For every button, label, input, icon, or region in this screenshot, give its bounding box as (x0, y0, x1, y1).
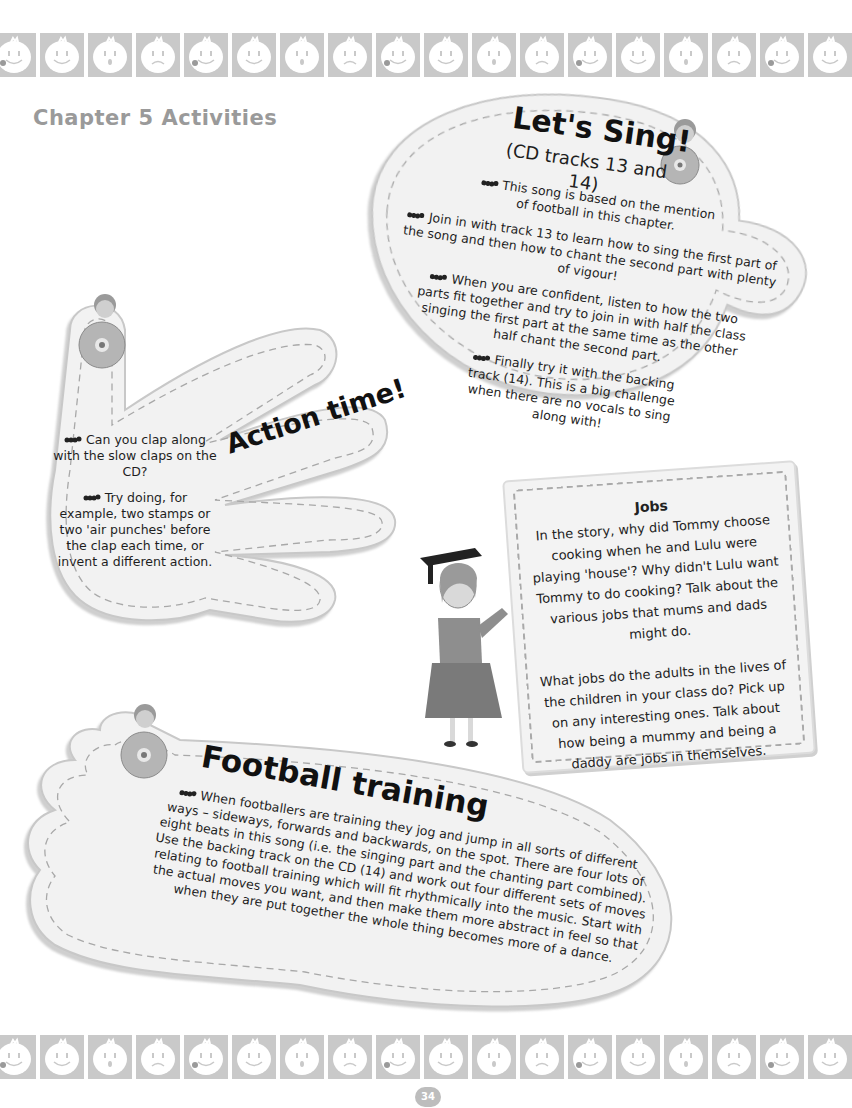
jobs-paragraph: What jobs do the adults in the lives of … (536, 654, 797, 776)
face-tile-surprised-icon (472, 1035, 516, 1079)
face-tile-sad-icon (520, 1035, 564, 1079)
face-tile-smile-tongue-icon (760, 1035, 804, 1079)
face-tile-smile-icon (232, 1035, 276, 1079)
lets-sing-body: This song is based on the mention of foo… (376, 165, 787, 463)
face-tile-smile-icon (40, 1035, 84, 1079)
caterpillar-bullet-icon (408, 206, 427, 215)
caterpillar-bullet-icon (64, 431, 82, 438)
face-tile-smile-icon (808, 1035, 852, 1079)
jobs-card-inner: Jobs In the story, why did Tommy choose … (513, 471, 805, 763)
face-tile-smile-tongue-icon (376, 1035, 420, 1079)
boy-with-cd-icon (79, 294, 125, 368)
face-tile-smile-icon (424, 1035, 468, 1079)
action-time-body: Can you clap along with the slow claps o… (40, 432, 230, 580)
action-time-bullet: Try doing, for example, two stamps or tw… (40, 490, 230, 570)
caterpillar-bullet-icon (430, 267, 449, 276)
teacher-graduate-icon (420, 548, 508, 747)
face-tile-sad-icon (328, 1035, 372, 1079)
bottom-face-border (0, 1035, 852, 1079)
face-tile-surprised-icon (664, 1035, 708, 1079)
caterpillar-bullet-icon (481, 173, 500, 182)
face-tile-sad-icon (136, 1035, 180, 1079)
face-tile-smile-tongue-icon (568, 1035, 612, 1079)
caterpillar-bullet-icon (83, 489, 101, 496)
face-tile-surprised-icon (280, 1035, 324, 1079)
face-tile-smile-tongue-icon (184, 1035, 228, 1079)
jobs-paragraph: In the story, why did Tommy choose cooki… (525, 508, 787, 651)
face-tile-sad-icon (712, 1035, 756, 1079)
caterpillar-bullet-icon (473, 348, 492, 357)
face-tile-surprised-icon (88, 1035, 132, 1079)
page-number: 34 (415, 1087, 441, 1107)
face-tile-smile-icon (616, 1035, 660, 1079)
face-tile-smile-tongue-icon (0, 1035, 36, 1079)
action-time-bullet: Can you clap along with the slow claps o… (40, 432, 230, 480)
jobs-card: Jobs In the story, why did Tommy choose … (502, 460, 816, 774)
caterpillar-bullet-icon (179, 783, 198, 793)
